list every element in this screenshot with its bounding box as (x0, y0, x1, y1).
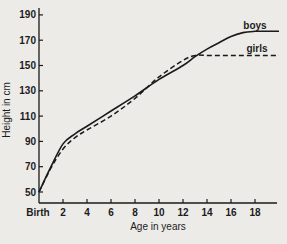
x-tick-label: 14 (201, 207, 213, 218)
x-tick-label: 8 (132, 207, 138, 218)
y-tick-label: 70 (25, 161, 37, 172)
y-tick-label: 190 (19, 9, 36, 20)
boys-label: boys (243, 20, 267, 31)
y-tick-label: 110 (20, 111, 37, 122)
girls-line (39, 55, 279, 192)
y-tick-label: 150 (19, 60, 36, 71)
y-tick-label: 130 (19, 85, 36, 96)
x-axis-ticks: Birth24681012141618 (26, 199, 261, 218)
x-tick-label: 18 (249, 207, 261, 218)
y-tick-label: 90 (25, 136, 37, 147)
x-tick-label: 12 (177, 207, 189, 218)
x-tick-label: Birth (26, 207, 49, 218)
x-tick-label: 10 (153, 207, 165, 218)
y-tick-label: 50 (25, 187, 37, 198)
girls-label: girls (246, 43, 268, 54)
x-axis-title: Age in years (130, 221, 186, 232)
y-tick-label: 170 (19, 35, 36, 46)
y-axis-title: Height in cm (1, 82, 12, 138)
x-tick-label: 2 (60, 207, 66, 218)
x-tick-label: 16 (225, 207, 237, 218)
growth-chart: 507090110130150170190 Birth2468101214161… (0, 0, 287, 244)
x-tick-label: 4 (84, 207, 90, 218)
x-tick-label: 6 (108, 207, 114, 218)
axes (39, 8, 277, 203)
